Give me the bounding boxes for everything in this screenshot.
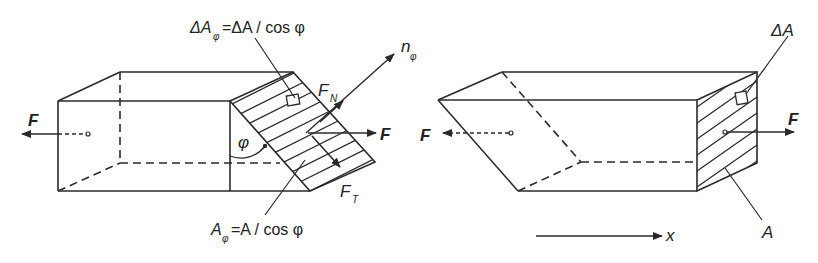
svg-text:A: A	[210, 221, 222, 238]
normal-section-hatch	[690, 56, 770, 224]
svg-text:=A / cos φ: =A / cos φ	[231, 221, 303, 238]
element-area-label: ΔA	[770, 21, 794, 40]
tangential-force-label: F	[340, 182, 352, 201]
leader-line-a	[725, 168, 762, 220]
tangential-force-subscript: T	[352, 194, 359, 205]
normal-force-subscript: N	[330, 93, 338, 104]
angle-label: φ	[238, 133, 249, 152]
section-area-equation: A φ =A / cos φ	[210, 221, 303, 244]
normal-force-arrow	[320, 101, 343, 122]
leader-line-a-phi	[265, 160, 305, 215]
x-axis-label: x	[665, 226, 675, 245]
force-label-left-right-panel: F	[420, 126, 431, 145]
force-label-right: F	[788, 110, 799, 129]
force-label-section: F	[380, 125, 391, 144]
force-label-left: F	[28, 111, 39, 130]
svg-text:ΔA: ΔA	[189, 19, 211, 36]
section-area-label: A	[761, 223, 773, 242]
normal-subscript: φ	[410, 51, 417, 62]
stress-inclined-section-diagram: φ F F n φ F N F T ΔA φ =ΔA / cos φ A φ =…	[0, 0, 818, 263]
svg-text:φ: φ	[222, 233, 229, 244]
right-bar-normal-section	[438, 72, 757, 191]
leader-line-delta-a	[746, 36, 788, 94]
svg-text:φ: φ	[213, 31, 220, 42]
svg-text:=ΔA / cos φ: =ΔA / cos φ	[222, 19, 305, 36]
normal-force-label: F	[318, 81, 330, 100]
element-area-equation: ΔA φ =ΔA / cos φ	[189, 19, 305, 42]
